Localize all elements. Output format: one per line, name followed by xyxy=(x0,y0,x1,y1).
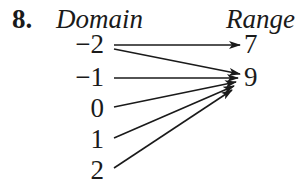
mapping-arrow xyxy=(114,86,234,138)
mapping-arrow xyxy=(114,90,232,168)
mapping-arrows xyxy=(0,0,307,196)
mapping-arrow xyxy=(114,82,236,107)
mapping-arrow xyxy=(114,49,240,74)
